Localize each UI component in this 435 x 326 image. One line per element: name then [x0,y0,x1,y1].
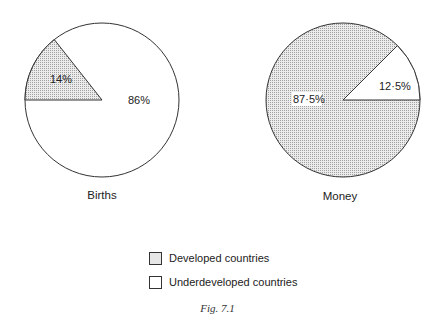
births-pie: 14% 86% Births [25,23,179,201]
money-title: Money [323,190,358,202]
blank-swatch-icon [149,276,162,289]
births-title: Births [87,189,117,201]
dotted-swatch-icon [149,252,162,265]
legend-item-developed: Developed countries [149,246,297,270]
money-developed-label: 87·5% [293,93,325,105]
money-pie: 87·5% 12·5% Money [266,23,420,202]
money-underdeveloped-label: 12·5% [379,80,411,92]
legend: Developed countries Underdeveloped count… [149,246,297,294]
legend-label: Developed countries [169,252,269,264]
legend-label: Underdeveloped countries [169,276,297,288]
births-developed-label: 14% [50,73,72,85]
legend-item-underdeveloped: Underdeveloped countries [149,270,297,294]
births-underdeveloped-label: 86% [128,94,150,106]
figure-caption: Fig. 7.1 [0,302,435,314]
